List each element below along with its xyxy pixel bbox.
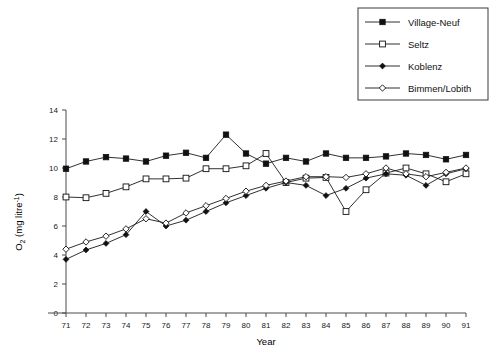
legend-marker-open-square [380,41,386,47]
x-tick-label: 79 [222,321,231,330]
data-point-marker [83,247,89,253]
x-tick-label: 84 [322,321,331,330]
x-tick-label: 78 [202,321,211,330]
x-tick-label: 85 [342,321,351,330]
legend-label: Village-Neuf [408,17,460,28]
data-point-marker [103,241,109,247]
data-point-marker [183,175,189,181]
data-point-marker [343,209,349,215]
chart-canvas: 02468101214O2 (mg litre-1)71727374757677… [0,0,494,362]
data-point-marker [363,171,369,177]
y-axis: 02468101214 [49,106,66,318]
x-tick-label: 74 [122,321,131,330]
data-point-marker [83,195,89,201]
x-tick-label: 76 [162,321,171,330]
x-tick-label: 72 [82,321,91,330]
data-point-marker [103,190,109,196]
x-tick-label: 91 [462,321,471,330]
data-point-marker [143,176,149,182]
data-point-marker [303,183,309,189]
data-point-marker [123,184,129,190]
data-point-marker [303,159,308,164]
x-tick-label: 81 [262,321,271,330]
data-point-marker [183,217,189,223]
data-point-marker [323,151,328,156]
data-point-marker [423,183,429,189]
y-tick-label: 10 [49,164,58,173]
data-point-marker [403,151,408,156]
data-point-marker [63,256,69,262]
y-tick-label: 4 [54,251,59,260]
x-tick-label: 77 [182,321,191,330]
data-point-marker [423,152,428,157]
data-point-marker [323,193,329,199]
data-point-marker [123,226,129,232]
data-point-marker [343,185,349,191]
data-point-marker [123,156,128,161]
y-tick-label: 6 [54,222,59,231]
data-point-marker [103,154,108,159]
y-tick-label: 14 [49,106,58,115]
legend: Village-NeufSeltzKoblenzBimmen/Lobith [358,8,488,100]
data-point-marker [223,195,229,201]
data-point-marker [283,155,288,160]
legend-label: Bimmen/Lobith [408,83,471,94]
legend-label: Seltz [408,39,429,50]
legend-label: Koblenz [408,61,443,72]
x-tick-label: 73 [102,321,111,330]
data-point-marker [203,203,209,209]
data-point-marker [143,159,148,164]
data-point-marker [183,210,189,216]
y-tick-label: 2 [54,280,59,289]
legend-marker-filled-square [380,19,385,24]
x-tick-label: 80 [242,321,251,330]
y-tick-label: 8 [54,193,59,202]
data-point-marker [143,216,149,222]
series-bimmen-lobith [63,165,469,253]
svg-text:O2 (mg litre-1): O2 (mg litre-1) [13,193,26,251]
data-point-marker [263,161,268,166]
oxygen-trend-chart: 02468101214O2 (mg litre-1)71727374757677… [0,0,494,362]
x-tick-label: 87 [382,321,391,330]
data-point-marker [83,239,89,245]
data-point-marker [63,166,68,171]
x-tick-label: 83 [302,321,311,330]
data-point-marker [63,194,69,200]
data-point-marker [443,157,448,162]
data-point-marker [203,155,208,160]
y-tick-label: 12 [49,135,58,144]
data-point-marker [163,176,169,182]
data-point-marker [383,154,388,159]
x-tick-label: 86 [362,321,371,330]
x-tick-label: 71 [62,321,71,330]
data-point-marker [343,155,348,160]
x-axis: 7172737475767778798081828384858687888990… [48,313,471,347]
data-point-marker [83,159,88,164]
x-tick-label: 82 [282,321,291,330]
data-point-marker [463,152,468,157]
data-point-marker [263,151,269,157]
data-point-marker [183,150,188,155]
data-point-marker [463,165,469,171]
data-point-marker [443,179,449,185]
data-point-marker [103,233,109,239]
x-tick-label: 88 [402,321,411,330]
series-koblenz [63,166,469,262]
data-point-marker [223,166,229,172]
data-point-marker [243,163,249,169]
x-tick-label: 75 [142,321,151,330]
x-tick-label: 90 [442,321,451,330]
data-point-marker [363,187,369,193]
x-axis-title: Year [256,336,275,347]
data-point-marker [163,153,168,158]
x-tick-label: 89 [422,321,431,330]
y-axis-title: O2 (mg litre-1) [13,193,26,251]
data-point-marker [243,151,248,156]
data-point-marker [203,166,209,172]
data-point-marker [343,174,349,180]
data-point-marker [63,246,69,252]
data-point-marker [243,188,249,194]
data-point-marker [363,155,368,160]
data-point-marker [223,132,228,137]
